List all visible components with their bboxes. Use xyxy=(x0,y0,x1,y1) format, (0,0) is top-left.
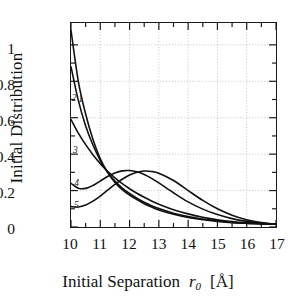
curve-3 xyxy=(71,120,276,225)
x-axis-title-text: Initial Separation xyxy=(62,272,180,291)
curve-label-4: 4 xyxy=(74,179,79,189)
y-tick-label: 0.4 xyxy=(0,149,15,165)
data-curves xyxy=(71,23,276,227)
figure-container: Initial Distribution 1 0.8 0.6 0.4 0.2 0… xyxy=(0,0,296,306)
x-axis-variable: r xyxy=(189,272,196,291)
curve-label-5: 5 xyxy=(74,201,79,211)
curve-5 xyxy=(71,171,276,224)
curve-2 xyxy=(71,67,276,225)
curve-label-2: 2 xyxy=(72,94,77,104)
y-tick-label: 0.8 xyxy=(0,77,15,93)
y-tick-label: 0 xyxy=(0,221,15,237)
x-axis-variable-subscript: 0 xyxy=(196,280,202,292)
curve-label-1: 1 xyxy=(78,95,83,105)
y-tick-label: 0.2 xyxy=(0,185,15,201)
y-tick-label: 0.6 xyxy=(0,113,15,129)
y-tick-label: 1 xyxy=(0,41,15,57)
curve-4 xyxy=(71,170,276,224)
x-axis-title: Initial Separationr0[Å] xyxy=(0,272,296,292)
plot-area: 12345 xyxy=(70,22,277,228)
x-tick-label: 17 xyxy=(257,236,296,252)
curve-label-3: 3 xyxy=(73,146,78,156)
x-axis-unit: [Å] xyxy=(210,272,234,291)
